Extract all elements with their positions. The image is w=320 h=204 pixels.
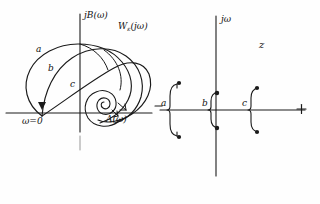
pole-b-lower [215,126,219,130]
nyquist-curve-a [26,44,131,123]
z-plane-label: z [259,40,264,50]
figure-canvas: jB(ω) A(ω) ω=0 Wε(jω) a b c jω z a b c [0,0,320,204]
nyquist-curve-a-crossing [80,44,108,70]
pole-c-upper [255,86,259,90]
pole-b-upper [215,91,219,95]
curve-label-b: b [48,64,54,73]
transfer-function-label: Wε(jω) [118,22,148,32]
right-axis-plus-sign [297,105,306,114]
nyquist-curve-b-crossing [104,50,121,90]
nyquist-curve-b [42,49,142,123]
right-plot-axes [160,16,305,176]
figure-vector-layer [0,0,320,204]
transfer-function-label-arg: (jω) [131,21,148,31]
curve-label-a: a [36,45,41,54]
pole-group-label-b: b [202,99,208,108]
pole-group-label-c: c [242,99,247,108]
right-plot-imaginary-axis-label: jω [221,15,231,24]
left-plot-imaginary-axis-label: jB(ω) [84,11,108,20]
pole-a-upper [177,81,181,85]
curve-label-c: c [70,80,75,89]
transfer-function-label-main: W [118,21,127,31]
pole-a-lower [177,135,181,139]
left-plot-real-axis-label: A(ω) [106,115,127,124]
pole-group-label-a: a [161,99,166,108]
omega-zero-arrow [38,102,46,110]
omega-zero-label: ω=0 [22,117,43,126]
pole-c-lower [255,130,259,134]
